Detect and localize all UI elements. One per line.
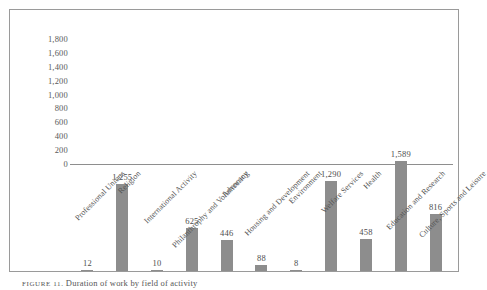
figure-caption: FIGURE 11. Duration of work by field of …: [22, 278, 197, 288]
y-axis: 02004006008001,0001,2001,4001,6001,800: [28, 10, 68, 271]
y-axis-tick-label: 1,200: [48, 76, 68, 86]
x-axis-tick-label: Welfare Services: [320, 169, 366, 215]
y-axis-tick-label: 200: [55, 145, 68, 155]
bar-value-label: 1,589: [391, 149, 411, 159]
y-axis-tick-label: 800: [55, 103, 68, 113]
y-axis-tick-label: 1,400: [48, 62, 68, 72]
figure-caption-text: Duration of work by field of activity: [66, 278, 198, 288]
y-axis-tick-label: 1,600: [48, 48, 68, 58]
y-axis-tick-label: 400: [55, 131, 68, 141]
x-axis-tick-label: International Activity: [142, 169, 198, 225]
x-axis-tick-label: Health: [361, 169, 383, 191]
y-axis-tick-label: 1,800: [48, 34, 68, 44]
y-axis-tick-label: 600: [55, 117, 68, 127]
x-axis-category-labels: Professional UnionsReligionInternational…: [70, 169, 453, 289]
x-axis-tick-label: Housing and Development: [243, 169, 312, 238]
x-axis-tick-label: Professional Unions: [74, 169, 127, 222]
figure-frame: 02004006008001,0001,2001,4001,6001,800 1…: [9, 9, 459, 272]
y-axis-tick-label: 0: [64, 159, 68, 169]
chart-plot-area: 02004006008001,0001,2001,4001,6001,800 1…: [10, 10, 458, 271]
figure-caption-label: FIGURE 11.: [22, 280, 64, 288]
x-axis-tick-label: Advocacy: [220, 169, 250, 199]
y-axis-tick-label: 1,000: [48, 90, 68, 100]
x-axis-tick-label: Culture, Sports and Leisure: [417, 169, 487, 239]
